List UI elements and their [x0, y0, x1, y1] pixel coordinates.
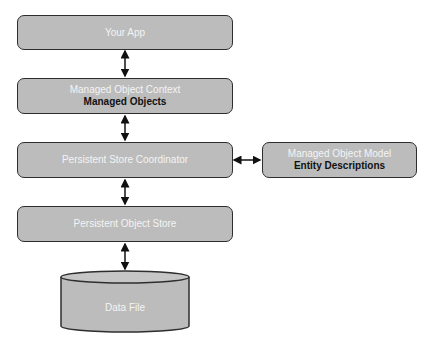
- node-title: Persistent Object Store: [74, 218, 177, 230]
- node-managed-object-model: Managed Object Model Entity Descriptions: [262, 142, 417, 178]
- node-managed-object-context: Managed Object Context Managed Objects: [17, 78, 233, 114]
- node-title: Persistent Store Coordinator: [62, 154, 188, 166]
- node-title: Managed Object Context: [70, 84, 181, 96]
- node-your-app: Your App: [17, 15, 233, 50]
- node-title: Your App: [105, 27, 145, 39]
- node-subtitle: Entity Descriptions: [294, 160, 385, 172]
- node-data-file-label: Data File: [61, 302, 189, 313]
- node-subtitle: Managed Objects: [84, 96, 167, 108]
- node-persistent-object-store: Persistent Object Store: [17, 206, 233, 242]
- node-title: Managed Object Model: [288, 148, 391, 160]
- node-persistent-store-coordinator: Persistent Store Coordinator: [17, 142, 233, 178]
